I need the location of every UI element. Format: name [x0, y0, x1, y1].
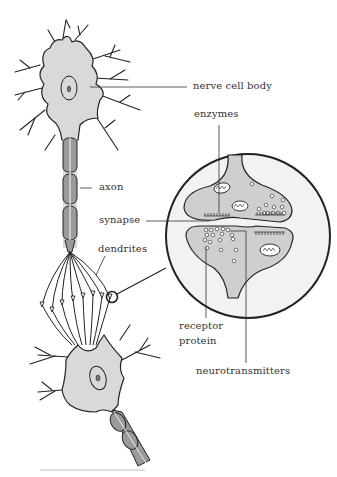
label-synapse: synapse — [99, 214, 140, 225]
label-nerve-cell-body: nerve cell body — [193, 80, 272, 91]
label-neurotransmitters: neurotransmitters — [196, 365, 290, 376]
synapse-magnified-view — [166, 154, 330, 318]
lower-axon — [107, 410, 150, 466]
axon-terminals — [42, 252, 110, 345]
lower-nerve-cell-body — [62, 335, 124, 412]
lower-nucleolus — [96, 375, 100, 381]
label-receptor-line2: protein — [179, 335, 216, 346]
label-enzymes: enzymes — [194, 108, 239, 119]
upper-nucleolus — [67, 86, 70, 92]
synapse-magnifier-origin — [107, 292, 118, 303]
label-axon: axon — [99, 181, 123, 192]
label-receptor-line1: receptor — [179, 320, 223, 331]
leader-dendrites — [96, 256, 105, 275]
axon — [63, 138, 77, 252]
neuron-diagram — [0, 0, 337, 477]
label-dendrites: dendrites — [98, 243, 147, 254]
magnifier-connector — [117, 268, 166, 294]
upper-nerve-cell-body — [40, 36, 103, 140]
